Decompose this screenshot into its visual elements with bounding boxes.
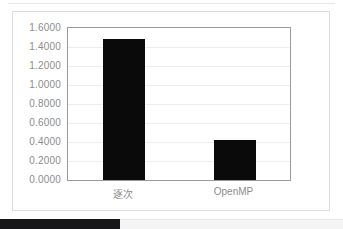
y-axis-tick-label: 1.2000: [29, 60, 61, 71]
y-axis-tick-label: 0.0000: [29, 174, 61, 185]
y-axis-tick-label: 0.4000: [29, 136, 61, 147]
x-axis-tick-label: 逐次: [113, 186, 133, 201]
chart-container: 1.60001.40001.20001.00000.80000.60000.40…: [12, 11, 330, 211]
gridline: [68, 85, 290, 86]
y-axis-tick-label: 1.4000: [29, 41, 61, 52]
gridline: [68, 161, 290, 162]
y-axis-tick-label: 1.6000: [29, 22, 61, 33]
bottom-scrollbar-track[interactable]: [120, 219, 343, 229]
y-axis: 1.60001.40001.20001.00000.80000.60000.40…: [13, 12, 67, 196]
y-axis-tick-label: 0.2000: [29, 155, 61, 166]
x-axis-tick-label: OpenMP: [214, 186, 253, 197]
y-axis-tick-label: 0.8000: [29, 98, 61, 109]
bar-1: [103, 39, 145, 180]
gridline: [68, 47, 290, 48]
x-axis: 逐次OpenMP: [67, 186, 291, 208]
gridline: [68, 66, 290, 67]
top-divider-rule: [8, 3, 335, 4]
gridline: [68, 104, 290, 105]
plot-area: [67, 27, 291, 181]
bottom-scrollbar[interactable]: [0, 219, 343, 229]
y-axis-tick-label: 0.6000: [29, 117, 61, 128]
gridline: [68, 142, 290, 143]
y-axis-tick-label: 1.0000: [29, 79, 61, 90]
bottom-scrollbar-thumb[interactable]: [0, 219, 120, 229]
gridline: [68, 123, 290, 124]
bar-2: [214, 140, 256, 180]
